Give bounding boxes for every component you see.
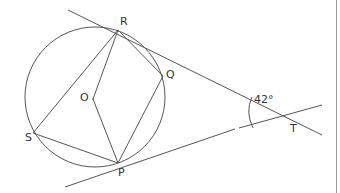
- circle: [25, 27, 165, 167]
- chord-sp: [33, 133, 118, 163]
- angle-arc-t: [249, 97, 253, 128]
- center-point-o: [92, 98, 94, 100]
- point-label-q: Q: [166, 69, 175, 80]
- right-border: [336, 0, 337, 193]
- point-label-o: O: [80, 92, 89, 103]
- radius-op: [93, 99, 118, 163]
- diagram-canvas: [0, 0, 340, 193]
- point-label-r: R: [120, 16, 128, 27]
- chord-rs: [33, 30, 118, 133]
- geometry-diagram: R Q O S P T 42°: [0, 0, 340, 193]
- tangent-line-rt: [68, 10, 322, 135]
- point-label-p: P: [118, 167, 125, 178]
- point-label-t: T: [290, 123, 297, 134]
- tangent-line-pt-segment-1: [65, 129, 235, 187]
- point-label-s: S: [25, 132, 32, 143]
- angle-label: 42°: [254, 94, 274, 105]
- radius-ro: [93, 30, 118, 99]
